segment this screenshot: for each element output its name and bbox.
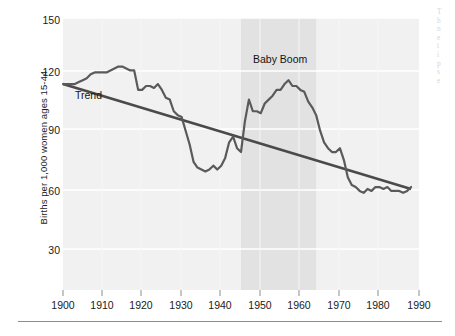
x-axis-tick-labels: 1900 1910 1920 1930 1940 1950 1960 1970 … — [0, 0, 455, 336]
x-tick-1910: 1910 — [80, 300, 124, 311]
x-tick-1990: 1990 — [397, 300, 441, 311]
baby-boom-annotation-label: Baby Boom — [253, 54, 307, 65]
margin-text-column: Thnetipse — [437, 8, 455, 108]
trend-annotation-label: Trend — [75, 90, 102, 101]
x-tick-1980: 1980 — [356, 300, 400, 311]
x-tick-1930: 1930 — [159, 300, 203, 311]
birth-rate-chart-figure: Births per 1,000 women ages 15-44 150 12… — [0, 0, 455, 336]
bottom-divider-rule — [18, 321, 442, 322]
x-tick-1970: 1970 — [317, 300, 361, 311]
x-tick-1920: 1920 — [119, 300, 163, 311]
x-tick-1940: 1940 — [198, 300, 242, 311]
x-tick-1900: 1900 — [41, 300, 85, 311]
x-tick-1960: 1960 — [277, 300, 321, 311]
x-tick-1950: 1950 — [238, 300, 282, 311]
